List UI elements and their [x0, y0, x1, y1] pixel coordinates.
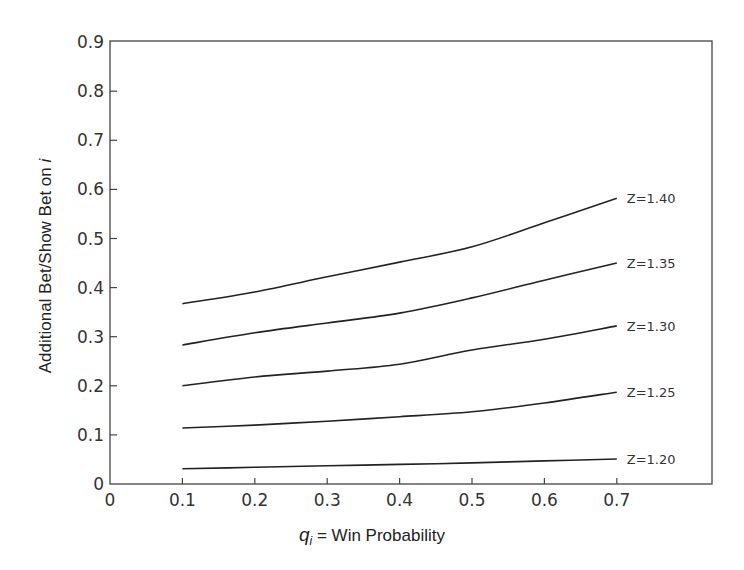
series-label: Z=1.25	[627, 385, 676, 400]
y-tick-label: 0.1	[77, 425, 104, 445]
series-label: Z=1.40	[627, 191, 676, 206]
series-label: Z=1.30	[627, 319, 676, 334]
series-curve	[182, 198, 616, 304]
series-curve	[182, 263, 616, 345]
x-tick-label: 0.6	[531, 490, 558, 510]
chart: 00.10.20.30.40.50.60.70.80.9 00.10.20.30…	[0, 0, 744, 570]
series-curve	[182, 392, 616, 428]
y-axis: 00.10.20.30.40.50.60.70.80.9	[77, 32, 117, 494]
x-axis-title: qi = Win Probability	[299, 524, 445, 548]
x-tick-label: 0.3	[314, 490, 341, 510]
x-tick-label: 0.5	[458, 490, 485, 510]
y-tick-label: 0.4	[77, 278, 104, 298]
y-tick-label: 0	[93, 474, 104, 494]
y-tick-label: 0.3	[77, 327, 104, 347]
y-axis-title: Additional Bet/Show Bet on i	[36, 158, 55, 374]
x-tick-label: 0.4	[386, 490, 413, 510]
x-axis: 00.10.20.30.40.50.60.7	[105, 478, 631, 510]
x-tick-label: 0.7	[603, 490, 630, 510]
plot-frame	[110, 41, 712, 484]
series-label: Z=1.20	[627, 452, 676, 467]
y-tick-label: 0.6	[77, 179, 104, 199]
x-tick-label: 0.2	[241, 490, 268, 510]
series-curve	[182, 459, 616, 469]
y-tick-label: 0.8	[77, 81, 104, 101]
x-tick-label: 0	[105, 490, 116, 510]
y-tick-label: 0.9	[77, 32, 104, 52]
series-label: Z=1.35	[627, 256, 676, 271]
series-curve	[182, 326, 616, 386]
x-tick-label: 0.1	[169, 490, 196, 510]
plot-area: Z=1.40Z=1.35Z=1.30Z=1.25Z=1.20	[182, 191, 675, 469]
y-tick-label: 0.7	[77, 130, 104, 150]
y-tick-label: 0.5	[77, 229, 104, 249]
y-tick-label: 0.2	[77, 376, 104, 396]
